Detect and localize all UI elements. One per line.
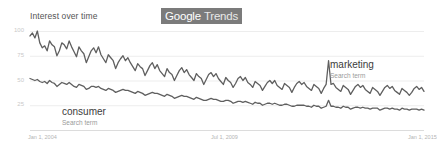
y-tick-label-75: 75 xyxy=(6,52,24,58)
series-sublabel-marketing: Search term xyxy=(330,71,374,80)
x-tick-label-2: Jan 1, 2015 xyxy=(408,134,437,140)
series-name-marketing: marketing xyxy=(330,59,374,71)
series-annotation-marketing: marketing Search term xyxy=(330,59,374,80)
series-annotation-consumer: consumer Search term xyxy=(62,106,106,127)
y-tick-label-100: 100 xyxy=(6,27,24,33)
series-name-consumer: consumer xyxy=(62,106,106,118)
y-tick-label-25: 25 xyxy=(6,101,24,107)
x-tick-label-1: Jul 1, 2009 xyxy=(211,134,238,140)
series-sublabel-consumer: Search term xyxy=(62,118,106,127)
x-tick-label-0: Jan 1, 2004 xyxy=(28,134,57,140)
y-tick-label-50: 50 xyxy=(6,77,24,83)
